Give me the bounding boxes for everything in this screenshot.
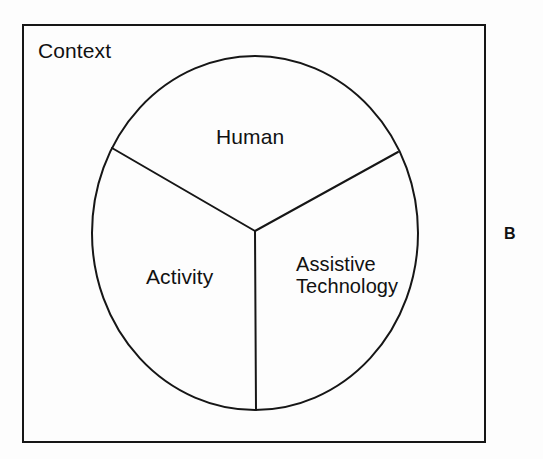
context-label: Context [38, 38, 111, 63]
divider-upper-right-line [255, 152, 398, 231]
venn-diagram [0, 0, 543, 459]
segment-label-assistive-technology: Assistive Technology [296, 253, 398, 297]
divider-upper-left-line [112, 148, 255, 231]
figure-canvas: Context Human Activity Assistive Technol… [0, 0, 543, 459]
segment-label-assistive-technology-line-1: Assistive [296, 253, 398, 275]
panel-label: B [504, 225, 516, 243]
segment-label-human: Human [216, 124, 284, 149]
segment-label-assistive-technology-line-2: Technology [296, 275, 398, 297]
segment-label-activity: Activity [146, 264, 213, 289]
divider-lower-line [255, 231, 256, 410]
